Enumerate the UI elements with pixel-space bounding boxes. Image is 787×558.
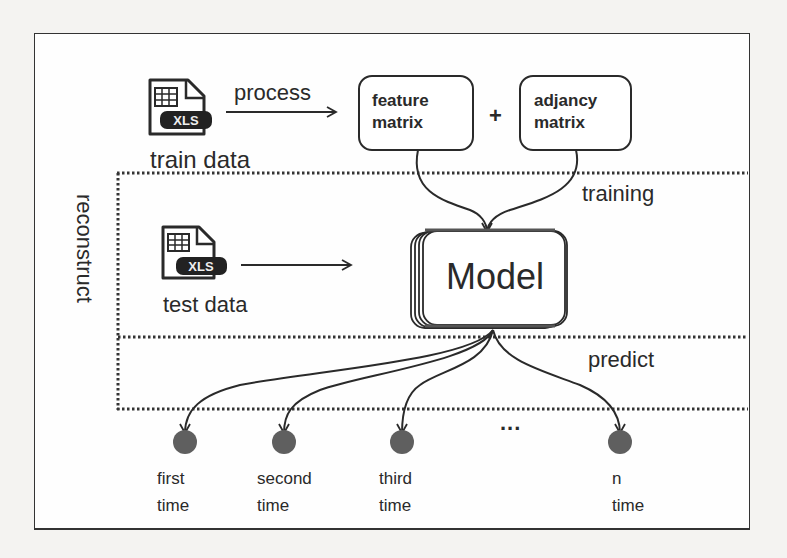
output-label-3: third time (379, 465, 412, 519)
ellipsis: ... (500, 410, 521, 436)
test-data-label: test data (163, 292, 247, 318)
train-data-label: train data (150, 146, 250, 174)
plus-sign: + (489, 103, 502, 129)
output-label-1: first time (157, 465, 189, 519)
output-node-n (608, 430, 632, 454)
output-node-3 (390, 430, 414, 454)
test-xls-icon: XLS (163, 227, 227, 278)
predict-label: predict (588, 347, 654, 373)
output-node-2 (272, 430, 296, 454)
process-label: process (234, 80, 311, 106)
model-label: Model (446, 256, 544, 298)
train-xls-icon: XLS (150, 80, 212, 134)
output-node-1 (173, 430, 197, 454)
adjacency-matrix-text: adjancy matrix (534, 90, 597, 134)
training-label: training (582, 181, 654, 207)
output-label-n: n time (612, 465, 644, 519)
feature-matrix-text: feature matrix (372, 90, 429, 134)
svg-text:XLS: XLS (188, 259, 214, 274)
svg-text:XLS: XLS (173, 113, 199, 128)
output-label-2: second time (257, 465, 312, 519)
reconstruct-label: reconstruct (71, 194, 97, 303)
